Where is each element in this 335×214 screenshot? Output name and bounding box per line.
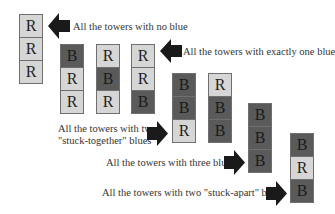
blue-block: B <box>290 133 314 157</box>
blue-block: B <box>208 119 232 143</box>
tower-two-together-bottom: R B B <box>208 73 232 143</box>
label-two-apart: All the towers with two "stuck-apart" bl… <box>102 187 284 199</box>
red-block: R <box>131 67 155 91</box>
blue-block: B <box>172 96 196 120</box>
red-block: R <box>96 44 120 68</box>
arrow-right-icon <box>147 121 168 146</box>
arrow-right-icon <box>224 150 245 175</box>
tower-one-blue-bottom: R R B <box>131 44 155 114</box>
red-block: R <box>208 73 232 97</box>
arrow-left-icon <box>48 13 70 39</box>
red-block: R <box>131 44 155 68</box>
blue-block: B <box>96 67 120 91</box>
blue-block: B <box>131 90 155 114</box>
tower-two-together-top: B B R <box>172 73 196 143</box>
red-block: R <box>172 119 196 143</box>
blue-block: B <box>208 96 232 120</box>
red-block: R <box>60 90 84 114</box>
blue-block: B <box>60 44 84 68</box>
arrow-right-icon <box>266 181 287 206</box>
red-block: R <box>19 60 43 84</box>
red-block: R <box>19 37 43 61</box>
tower-two-apart: B R B <box>290 133 314 203</box>
tower-one-blue-top: B R R <box>60 44 84 114</box>
red-block: R <box>60 67 84 91</box>
arrow-left-icon <box>160 39 182 63</box>
blue-block: B <box>290 179 314 203</box>
blue-block: B <box>248 103 272 127</box>
tower-one-blue-middle: R B R <box>96 44 120 114</box>
red-block: R <box>290 156 314 180</box>
label-one-blue: All the towers with exactly one blue <box>183 46 335 58</box>
tower-no-blue: R R R <box>19 14 43 84</box>
label-three-blues: All the towers with three blues <box>106 157 235 169</box>
red-block: R <box>19 14 43 38</box>
blue-block: B <box>248 149 272 173</box>
label-no-blue: All the towers with no blue <box>73 21 188 33</box>
blue-block: B <box>248 126 272 150</box>
label-two-together-line1: All the towers with two <box>58 123 157 135</box>
tower-three-blue: B B B <box>248 103 272 173</box>
label-two-together-line2: "stuck-together" blues <box>58 135 151 147</box>
red-block: R <box>96 90 120 114</box>
blue-block: B <box>172 73 196 97</box>
